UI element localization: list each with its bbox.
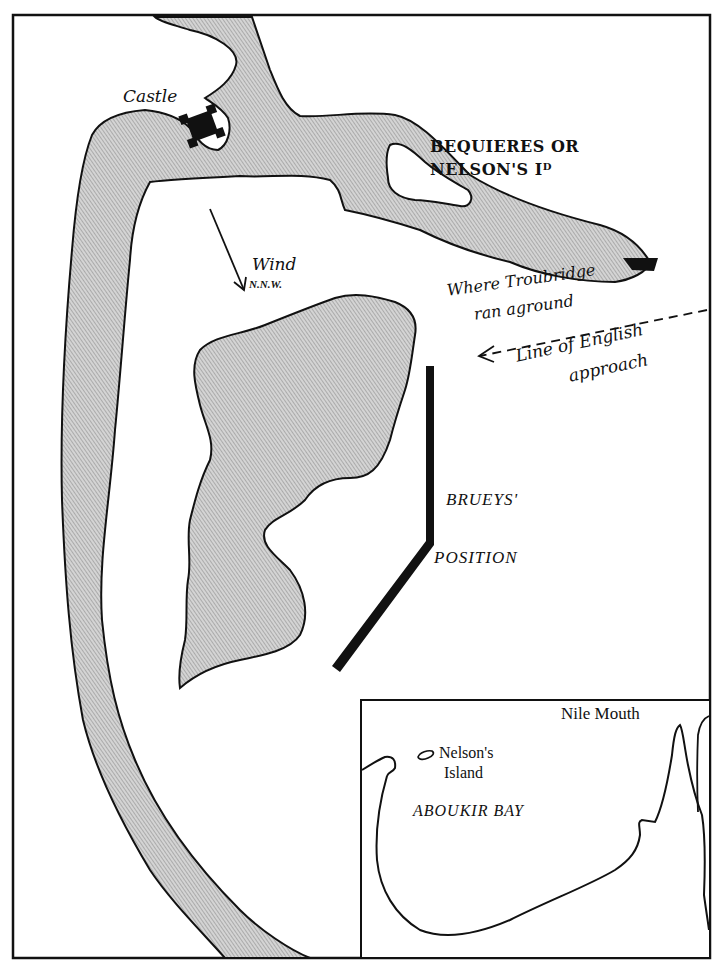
map-canvas (0, 0, 722, 974)
island-label-line1: BEQUIERES OR (430, 139, 579, 155)
brueys-label-line2: POSITION (434, 549, 518, 566)
inset-frame (361, 700, 710, 958)
inset-nelsons-island-label-line1: Nelson's (439, 745, 493, 761)
wind-direction-label: N.N.W. (249, 279, 282, 290)
inset-bay-label: ABOUKIR BAY (413, 803, 524, 819)
wind-arrow-icon (210, 209, 246, 290)
land-shoal (179, 295, 415, 688)
wind-label: Wind (252, 256, 296, 273)
brueys-label-line1: BRUEYS' (446, 491, 518, 508)
island-label-line2: NELSON'S Iᴰ (430, 162, 552, 178)
inset-nile-mouth-label: Nile Mouth (561, 705, 640, 722)
castle-label: Castle (123, 88, 177, 105)
inset-nelsons-island-label-line2: Island (444, 765, 483, 781)
